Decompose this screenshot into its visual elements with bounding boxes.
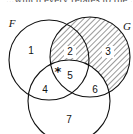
region-label-4: 4	[42, 84, 48, 95]
region-label-5: 5	[67, 70, 73, 81]
region-label-3: 3	[105, 46, 111, 57]
set-label-f: F	[8, 17, 16, 29]
asterisk-marker-icon: *	[55, 64, 62, 79]
region-label-1: 1	[28, 45, 34, 56]
region-label-7: 7	[66, 114, 72, 125]
venn-diagram: F G 1 2 3 4 5 6 7 *	[0, 0, 133, 134]
region-label-2: 2	[67, 46, 73, 57]
region-label-6: 6	[92, 84, 98, 95]
set-label-g: G	[123, 20, 131, 32]
